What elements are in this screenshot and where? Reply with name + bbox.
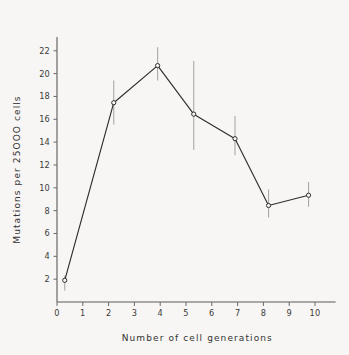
x-tick-label: 0: [54, 308, 59, 318]
y-tick-label: 18: [39, 91, 50, 101]
x-tick-label: 4: [157, 308, 162, 318]
y-tick-label: 16: [39, 114, 50, 124]
y-tick-label: 4: [45, 251, 50, 261]
line-chart: 246810121416182022012345678910Number of …: [0, 0, 349, 355]
x-axis-title: Number of cell generations: [122, 333, 273, 343]
y-tick-label: 22: [39, 46, 50, 56]
y-tick-label: 20: [39, 69, 50, 79]
x-tick-label: 2: [106, 308, 111, 318]
x-tick-label: 9: [286, 308, 291, 318]
x-tick-label: 8: [261, 308, 266, 318]
series-line-0: [65, 66, 309, 281]
data-point-marker: [192, 112, 196, 116]
x-tick-label: 10: [310, 308, 321, 318]
data-point-marker: [112, 101, 116, 105]
y-tick-label: 10: [39, 183, 50, 193]
x-tick-label: 3: [132, 308, 137, 318]
figure-panel: 246810121416182022012345678910Number of …: [0, 0, 349, 355]
x-tick-label: 5: [183, 308, 188, 318]
y-tick-label: 8: [45, 206, 50, 216]
y-tick-label: 2: [45, 274, 50, 284]
y-tick-label: 12: [39, 160, 50, 170]
y-tick-label: 6: [45, 228, 50, 238]
data-point-marker: [233, 137, 237, 141]
y-tick-label: 14: [39, 137, 50, 147]
data-point-marker: [266, 203, 270, 207]
data-point-marker: [63, 278, 67, 282]
data-point-marker: [156, 64, 160, 68]
y-axis-title: Mutations per 25OOO cells: [12, 95, 22, 243]
x-tick-label: 6: [209, 308, 214, 318]
x-tick-label: 1: [80, 308, 85, 318]
x-tick-label: 7: [235, 308, 240, 318]
data-point-marker: [306, 193, 310, 197]
